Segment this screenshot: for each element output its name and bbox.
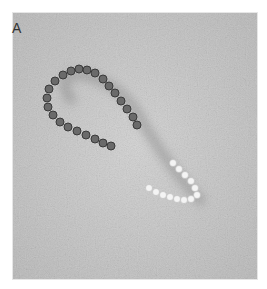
photo-panel bbox=[12, 12, 258, 280]
bead-photo bbox=[13, 13, 257, 279]
panel-label: A bbox=[12, 20, 21, 36]
